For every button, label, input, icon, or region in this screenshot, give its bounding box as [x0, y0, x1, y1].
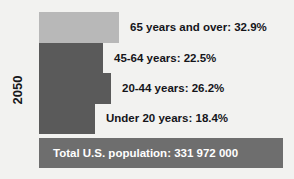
bar-label-65-and-over: 65 years and over: 32.9% [119, 12, 267, 43]
bar-45-64-years[interactable] [39, 43, 103, 74]
bar-20-44-years[interactable] [39, 73, 111, 104]
bar-label-45-64-years: 45-64 years: 22.5% [103, 43, 216, 74]
bar-row: 20-44 years: 26.2% [39, 73, 224, 104]
bar-row: Under 20 years: 18.4% [39, 103, 228, 134]
bar-label-20-44-years: 20-44 years: 26.2% [111, 73, 224, 104]
bar-row: 65 years and over: 32.9% [39, 12, 267, 43]
total-population-label: Total U.S. population: 331 972 000 [39, 147, 238, 159]
population-bar-chart: 2050 65 years and over: 32.9% 45-64 year… [0, 0, 294, 179]
bar-under-20-years[interactable] [39, 103, 95, 134]
total-population-bar[interactable]: Total U.S. population: 331 972 000 [39, 138, 283, 168]
bar-label-under-20-years: Under 20 years: 18.4% [95, 103, 228, 134]
bar-row: 45-64 years: 22.5% [39, 43, 216, 74]
bar-65-and-over[interactable] [39, 12, 119, 43]
